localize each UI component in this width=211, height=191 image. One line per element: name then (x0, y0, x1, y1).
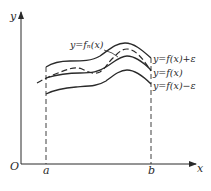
curve-fn-dashed (37, 49, 151, 83)
fn-leader-line (104, 50, 118, 57)
tick-a-label: a (43, 164, 50, 177)
x-axis-label: x (197, 162, 204, 175)
label-f-plus-eps: y=f(x)+ε (152, 53, 196, 64)
label-fn: y=fₙ(x) (69, 39, 104, 50)
curve-f (46, 56, 151, 78)
tick-b-label: b (148, 164, 155, 177)
y-axis-label: y (9, 10, 17, 23)
convergence-diagram: y x O a b y=fₙ(x) y=f(x)+ε y=f(x) y=f(x)… (0, 0, 211, 191)
label-f: y=f(x) (152, 67, 183, 78)
curve-f-minus-eps (46, 70, 151, 94)
origin-label: O (10, 160, 19, 173)
label-f-minus-eps: y=f(x)−ε (152, 80, 196, 91)
